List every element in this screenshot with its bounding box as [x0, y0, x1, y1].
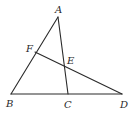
segment-AB [11, 17, 58, 94]
label-E: E [66, 55, 75, 66]
label-A: A [54, 4, 62, 15]
label-B: B [5, 98, 13, 109]
segment-FD [35, 52, 122, 94]
geometry-diagram: A F E B C D [0, 0, 136, 113]
label-F: F [25, 43, 34, 54]
label-D: D [119, 99, 128, 110]
label-C: C [64, 99, 72, 110]
